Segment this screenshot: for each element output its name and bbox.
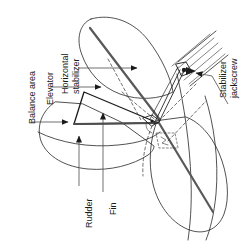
lower-lobe-sweep-arc <box>205 96 217 240</box>
label-stabilizer-jackscrew-line2: jackscrew <box>229 58 239 98</box>
label-horizontal-stabilizer-line1: Horizontal <box>60 53 70 94</box>
fin-root-chord <box>74 123 158 124</box>
rudder-lower-outline <box>150 117 227 232</box>
leader-stabilizer-jackscrew <box>196 73 212 76</box>
label-fin: Fin <box>108 202 118 215</box>
balance-area-edge-arc <box>38 132 160 146</box>
rudder-spar <box>159 123 213 212</box>
empennage-diagram: Balance area Elevator Horizontal stabili… <box>0 0 249 242</box>
label-rudder: Rudder <box>84 198 94 228</box>
hidden-jack-track-2 <box>168 101 206 141</box>
jackscrew-body-edge-1 <box>178 31 216 62</box>
label-horizontal-stabilizer-line2: stabilizer <box>71 58 81 94</box>
hidden-stabilizer-rib <box>122 92 157 121</box>
label-balance-area: Balance area <box>27 71 37 124</box>
diagram-svg <box>0 0 249 242</box>
geometry-group <box>38 17 228 240</box>
label-elevator: Elevator <box>45 72 55 105</box>
hinge-pivot-point <box>150 119 153 122</box>
left-stabilizer-outline <box>79 17 173 98</box>
label-stabilizer-jackscrew-line1: Stabilizer <box>218 61 228 98</box>
